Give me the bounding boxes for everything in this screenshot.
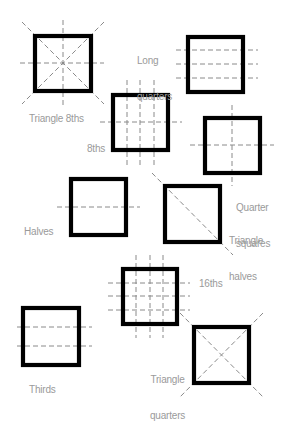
label-triangle-quarters: Triangle quarters [150, 350, 185, 425]
label-triangle-quarters-line2: quarters [150, 410, 185, 422]
label-long-quarters: Long quarters [137, 31, 172, 115]
label-triangle-halves-line2: halves [229, 271, 263, 283]
label-16ths: 16ths [199, 278, 222, 290]
16ths-shape [108, 255, 190, 338]
label-long-quarters-line2: quarters [137, 91, 172, 103]
label-triangle-halves-line1: Triangle [229, 235, 263, 247]
thirds-shape [17, 308, 92, 365]
long-quarters-shape [176, 37, 258, 92]
label-thirds: Thirds [29, 384, 56, 396]
quarter-squares-shape [190, 105, 274, 186]
label-long-quarters-line1: Long [137, 55, 172, 67]
label-8ths: 8ths [87, 143, 105, 155]
triangle-8ths-shape [20, 20, 104, 106]
label-triangle-halves: Triangle halves [229, 211, 263, 295]
label-triangle-8ths: Triangle 8ths [29, 113, 84, 125]
thirds-square [23, 308, 79, 365]
label-triangle-quarters-line1: Triangle [150, 374, 185, 386]
triangle-quarters-shape [180, 313, 263, 397]
label-halves: Halves [24, 226, 53, 238]
triangle-halves-shape [152, 173, 233, 255]
halves-shape [57, 179, 140, 235]
